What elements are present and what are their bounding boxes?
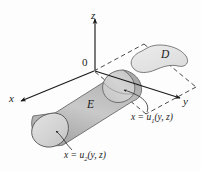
upper-surface-label: x = u1(y, z) [131,113,173,124]
x-axis-label: x [9,93,14,104]
lower-surface-args: (y, z) [87,150,105,160]
z-axis-label: z [91,10,95,21]
figure-container: z x y 0 E D x = u1(y, z) x = u2(y, z) [0,0,201,172]
upper-surface-args: (y, z) [154,112,172,122]
solid-region-label: E [87,99,94,111]
projection-region-D [131,45,187,73]
upper-surface-prefix: x = u [131,112,151,122]
y-axis-label: y [183,96,188,107]
figure-graphic [0,0,201,172]
lower-surface-label: x = u2(y, z) [64,151,106,162]
projection-region-label: D [161,49,169,61]
lower-surface-prefix: x = u [64,150,84,160]
origin-label: 0 [82,57,88,68]
